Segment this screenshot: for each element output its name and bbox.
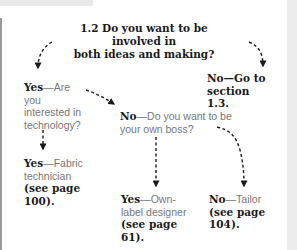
arrow-question-to-yes <box>38 42 52 68</box>
arrow-question-to-no <box>249 42 263 66</box>
arrow-yes-to-no-boss <box>86 90 114 104</box>
arrow-boss-to-tailor <box>217 127 244 186</box>
flow-arrows <box>0 0 297 250</box>
